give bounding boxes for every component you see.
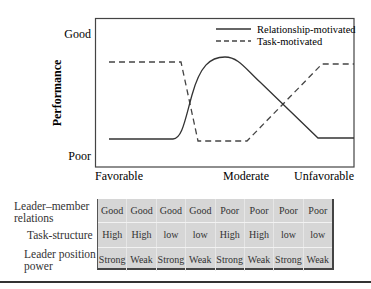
table-cell: Poor <box>215 199 244 222</box>
bottom-divider <box>0 281 371 283</box>
table-cell: Strong <box>98 248 126 271</box>
table-cell: low <box>156 223 185 246</box>
table-cell: Good <box>185 199 214 222</box>
legend-label-task: Task-motivated <box>257 36 323 47</box>
x-tick-favorable: Favorable <box>95 169 143 183</box>
table-cell: Good <box>156 199 185 222</box>
row-label-task-structure: Task-structure <box>27 229 93 241</box>
y-tick-poor: Poor <box>68 149 91 163</box>
table-cell: Weak <box>303 248 332 271</box>
table-cell: High <box>98 223 126 246</box>
table-row-leader-position-power: Strong Weak Strong Weak Strong Weak Stro… <box>98 247 332 271</box>
table-cell: Strong <box>215 248 244 271</box>
table-cell: High <box>244 223 273 246</box>
performance-chart: Relationship-motivated Task-motivated Go… <box>0 0 371 200</box>
task-motivated-line <box>109 62 354 141</box>
x-tick-unfavorable: Unfavorable <box>294 169 354 183</box>
table-cell: Weak <box>244 248 273 271</box>
table-cell: Good <box>126 199 155 222</box>
table-cell: low <box>303 223 332 246</box>
situation-table: Good Good Good Good Poor Poor Poor Poor … <box>97 199 334 270</box>
table-row-task-structure: High High low low High High low low <box>98 222 332 246</box>
x-tick-moderate: Moderate <box>223 169 269 183</box>
legend-label-relationship: Relationship-motivated <box>257 24 356 35</box>
table-cell: Strong <box>273 248 302 271</box>
table-cell: Good <box>98 199 126 222</box>
table-cell: Poor <box>303 199 332 222</box>
y-axis-title: Performance <box>50 59 64 126</box>
table-cell: High <box>126 223 155 246</box>
row-label-lmr-line1: Leader–member <box>14 200 89 212</box>
table-cell: low <box>273 223 302 246</box>
y-tick-good: Good <box>64 27 91 41</box>
row-label-leader-member-relations: Leader–member relations <box>14 200 89 224</box>
table-cell: Strong <box>156 248 185 271</box>
table-cell: Poor <box>244 199 273 222</box>
table-cell: Weak <box>126 248 155 271</box>
row-label-power-line2: power <box>24 260 96 272</box>
table-row-leader-member-relations: Good Good Good Good Poor Poor Poor Poor <box>98 199 332 222</box>
table-cell: Poor <box>273 199 302 222</box>
table-cell: High <box>215 223 244 246</box>
row-label-power-line1: Leader position <box>24 248 96 260</box>
row-label-leader-position-power: Leader position power <box>24 248 96 272</box>
table-cell: Weak <box>185 248 214 271</box>
row-label-lmr-line2: relations <box>14 212 89 224</box>
table-cell: low <box>185 223 214 246</box>
